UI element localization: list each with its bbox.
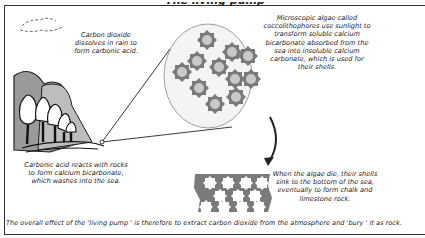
caption-line: When the algae die, their shells [270,170,380,178]
caption-line: limestone rock. [270,195,380,203]
caption-line: Carbonic acid reacts with rocks [20,161,132,169]
caption-rocks: Carbonic acid reacts with rocks to form … [20,161,132,186]
cloud-icon [20,18,64,31]
hills-and-trees [14,72,104,153]
caption-line: sea into insoluble calcium [252,47,382,55]
caption-line: which washes into the sea. [20,177,132,185]
caption-line: form carbonic acid. [63,47,149,55]
caption-line: transform soluble calcium [252,30,382,38]
chalk-sediment-layer [194,174,272,214]
caption-line: Carbon dioxide [63,31,149,39]
caption-sediment: When the algae die, their shells sink to… [270,170,380,203]
caption-line: sink to the bottom of the sea, [270,178,380,186]
caption-rain: Carbon dioxide dissolves in rain to form… [63,31,149,56]
curved-arrow-down-icon [264,117,276,166]
caption-algae: Microscopic algae called coccolithophore… [252,14,382,71]
caption-line: Microscopic algae called [252,14,382,22]
caption-line: bicarbonate absorbed from the [252,39,382,47]
magnified-circle [164,24,261,128]
caption-line: their shells. [252,63,382,71]
caption-line: coccolithophores use sunlight to [252,22,382,30]
caption-line: carbonate, which is used for [252,55,382,63]
caption-line: to form calcium bicarbonate, [20,169,132,177]
caption-line: eventually to form chalk and [270,186,380,194]
caption-line: dissolves in rain to [63,39,149,47]
conclusion-text: The overall effect of the 'living pump '… [6,219,400,227]
